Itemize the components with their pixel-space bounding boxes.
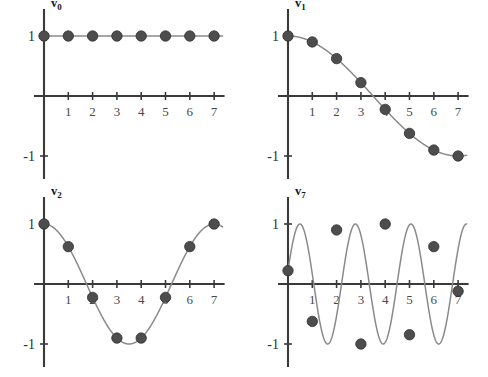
- x-tick-label: 6: [431, 292, 438, 307]
- data-point: [39, 219, 49, 229]
- x-tick-label: 6: [187, 104, 194, 119]
- x-tick-label: 4: [382, 292, 389, 307]
- data-point: [87, 292, 97, 302]
- x-tick-label: 4: [138, 292, 145, 307]
- x-tick-label: 3: [114, 104, 121, 119]
- x-tick-label: 4: [138, 104, 145, 119]
- series-label: v2: [51, 188, 62, 200]
- y-tick-label: -1: [267, 149, 279, 164]
- data-point: [307, 37, 317, 47]
- data-point: [39, 31, 49, 41]
- panel-v1: 12345671-1v1: [244, 0, 488, 188]
- x-tick-label: 2: [89, 104, 96, 119]
- x-tick-label: 3: [114, 292, 121, 307]
- data-point: [160, 31, 170, 41]
- y-tick-label: -1: [23, 149, 35, 164]
- x-tick-label: 5: [406, 104, 413, 119]
- data-point: [283, 265, 293, 275]
- x-tick-label: 2: [333, 104, 340, 119]
- x-tick-label: 1: [309, 104, 316, 119]
- x-tick-label: 1: [65, 104, 72, 119]
- plot-v1: 12345671-1v1: [244, 0, 488, 188]
- x-tick-label: 7: [211, 104, 218, 119]
- data-point: [404, 330, 414, 340]
- series-label: v7: [295, 188, 306, 200]
- x-tick-label: 5: [406, 292, 413, 307]
- data-point: [185, 31, 195, 41]
- data-point: [307, 316, 317, 326]
- data-point: [356, 339, 366, 349]
- data-point: [331, 225, 341, 235]
- plot-v2: 12345671-1v2: [0, 188, 244, 376]
- panel-v0: 12345671-1v0: [0, 0, 244, 188]
- x-tick-label: 3: [358, 104, 365, 119]
- panel-v7: 12345671-1v7: [244, 188, 488, 376]
- x-tick-label: 5: [162, 104, 169, 119]
- x-tick-label: 3: [358, 292, 365, 307]
- x-tick-label: 6: [431, 104, 438, 119]
- data-point: [331, 53, 341, 63]
- y-tick-label: 1: [272, 217, 279, 232]
- panel-v2: 12345671-1v2: [0, 188, 244, 376]
- plot-content-v7: 12345671-1v7: [267, 188, 468, 367]
- x-tick-label: 7: [455, 104, 462, 119]
- x-tick-label: 6: [187, 292, 194, 307]
- plot-v0: 12345671-1v0: [0, 0, 244, 188]
- data-point: [87, 31, 97, 41]
- data-point: [356, 77, 366, 87]
- data-point: [429, 241, 439, 251]
- data-point: [63, 241, 73, 251]
- data-point: [453, 286, 463, 296]
- y-tick-label: -1: [23, 337, 35, 352]
- x-tick-label: 1: [65, 292, 72, 307]
- plot-v7: 12345671-1v7: [244, 188, 488, 376]
- x-tick-label: 7: [211, 292, 218, 307]
- data-point: [112, 333, 122, 343]
- plot-content-v1: 12345671-1v1: [267, 0, 468, 179]
- data-point: [112, 31, 122, 41]
- data-point: [136, 31, 146, 41]
- plot-content-v2: 12345671-1v2: [23, 188, 224, 367]
- series-label: v1: [295, 0, 306, 12]
- data-point: [380, 219, 390, 229]
- data-point: [209, 219, 219, 229]
- data-point: [136, 333, 146, 343]
- series-label: v0: [51, 0, 62, 12]
- data-point: [380, 104, 390, 114]
- data-point: [209, 31, 219, 41]
- data-point: [63, 31, 73, 41]
- data-point: [185, 241, 195, 251]
- data-point: [160, 292, 170, 302]
- data-point: [404, 128, 414, 138]
- plot-content-v0: 12345671-1v0: [23, 0, 224, 179]
- data-point: [283, 31, 293, 41]
- y-tick-label: -1: [267, 337, 279, 352]
- y-tick-label: 1: [272, 29, 279, 44]
- y-tick-label: 1: [28, 217, 35, 232]
- basis-vectors-figure: 12345671-1v0 12345671-1v1 12345671-1v2 1…: [0, 0, 488, 377]
- y-tick-label: 1: [28, 29, 35, 44]
- data-point: [429, 145, 439, 155]
- data-point: [453, 151, 463, 161]
